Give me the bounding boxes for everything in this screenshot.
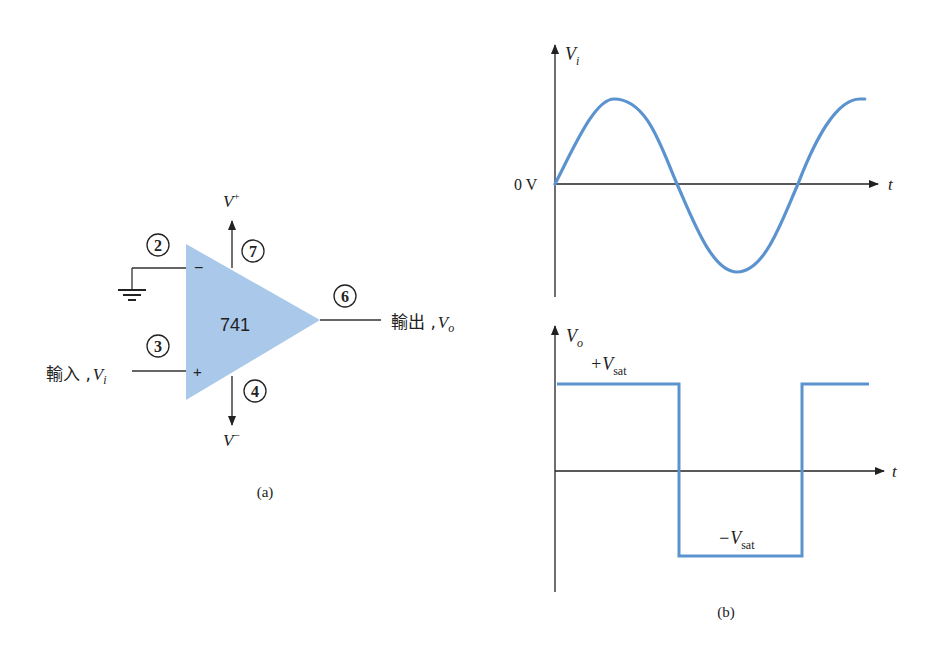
v-plus-label: V+ [223,190,240,211]
opamp-triangle [186,244,320,400]
noninverting-symbol: + [193,363,202,380]
pos-sat-label: +Vsat [590,354,627,378]
vo-x-label: t [892,462,898,481]
pin-4-badge: 4 [244,380,266,402]
inverting-symbol: − [194,259,203,276]
svg-text:6: 6 [341,288,349,305]
caption-b: (b) [717,604,735,621]
input-label: 輸入 ,Vi [46,364,107,387]
svg-text:2: 2 [154,237,162,254]
vi-sine-curve [555,99,865,272]
vo-output-waveform-plot: Vo t +Vsat −Vsat (b) [555,326,898,621]
figure-canvas: − + 741 2 7 3 4 6 V+ V− [0,0,932,653]
svg-text:3: 3 [154,338,162,355]
zero-volt-label: 0 V [514,176,538,193]
caption-a: (a) [257,484,274,501]
svg-text:4: 4 [251,383,259,400]
pin-3-badge: 3 [147,335,169,357]
pin-6-badge: 6 [334,285,356,307]
vi-y-label: Vi [565,44,579,68]
ground-icon [118,290,146,300]
v-minus-label: V− [223,429,240,450]
vi-input-waveform-plot: Vi 0 V t [514,44,894,297]
opamp-part-number: 741 [220,315,250,335]
vi-x-label: t [888,175,894,194]
output-label: 輸出 ,Vo [391,312,454,335]
pin-2-badge: 2 [147,234,169,256]
vo-y-label: Vo [566,326,583,350]
pin-7-badge: 7 [242,240,264,262]
figure-a-opamp-diagram: − + 741 2 7 3 4 6 V+ V− [46,190,454,501]
neg-sat-label: −Vsat [718,528,755,552]
vo-square-wave [557,384,869,556]
svg-text:7: 7 [249,243,257,260]
